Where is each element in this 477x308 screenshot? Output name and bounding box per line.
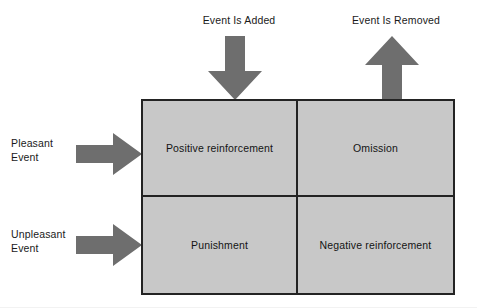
- quadrant-label: Negative reinforcement: [320, 239, 432, 251]
- arrow-down-icon: [204, 36, 266, 100]
- quadrant-punishment: Punishment: [143, 197, 298, 293]
- arrow-up-icon: [361, 36, 423, 100]
- column-header-event-added: Event Is Added: [179, 14, 299, 27]
- arrow-right-icon: [76, 132, 142, 176]
- row-header-pleasant-event: Pleasant Event: [11, 137, 81, 164]
- column-header-event-removed: Event Is Removed: [331, 14, 461, 27]
- quadrant-matrix: Positive reinforcement Omission Punishme…: [141, 99, 455, 295]
- operant-conditioning-diagram: Event Is Added Event Is Removed Pleasant…: [0, 0, 477, 308]
- arrow-right-icon: [76, 223, 142, 267]
- quadrant-label: Punishment: [191, 239, 248, 251]
- quadrant-negative-reinforcement: Negative reinforcement: [298, 197, 453, 293]
- quadrant-label: Positive reinforcement: [166, 142, 273, 154]
- quadrant-label: Omission: [353, 142, 398, 154]
- quadrant-positive-reinforcement: Positive reinforcement: [143, 101, 298, 197]
- quadrant-omission: Omission: [298, 101, 453, 197]
- row-header-pleasant-line2: Event: [11, 151, 81, 165]
- row-header-pleasant-line1: Pleasant: [11, 137, 81, 151]
